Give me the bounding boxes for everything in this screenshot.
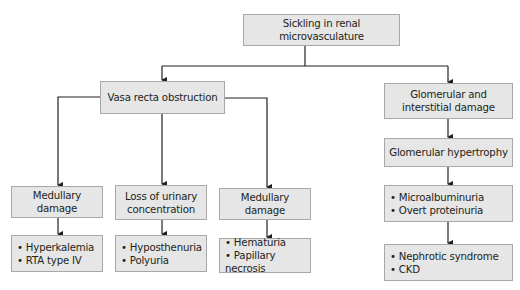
- list-item: Polyuria: [121, 254, 202, 267]
- list-item: Papillary necrosis: [225, 249, 310, 275]
- list-item: Hyperkalemia: [17, 241, 94, 254]
- glomerular-hypertrophy-node: Glomerular hypertrophy: [384, 138, 513, 167]
- nephrotic-node: Nephrotic syndrome CKD: [384, 244, 513, 281]
- glomerular-interstitial-node: Glomerular and interstitial damage: [384, 83, 513, 119]
- urinary-concentration-label: Loss of urinary concentration: [120, 190, 202, 216]
- root-label: Sickling in renal microvasculature: [244, 17, 399, 43]
- list-item: CKD: [390, 263, 499, 276]
- vasa-recta-node: Vasa recta obstruction: [100, 81, 225, 114]
- urinary-concentration-node: Loss of urinary concentration: [115, 185, 207, 220]
- proteinuria-node: Microalbuminuria Overt proteinuria: [384, 185, 513, 222]
- hyperkalemia-node: Hyperkalemia RTA type IV: [11, 235, 103, 272]
- medullary-damage-node-2: Medullary damage: [219, 188, 311, 220]
- list-item: Overt proteinuria: [390, 204, 484, 217]
- root-node: Sickling in renal microvasculature: [243, 14, 400, 46]
- medullary-damage-node-1: Medullary damage: [11, 186, 103, 218]
- glomerular-interstitial-label: Glomerular and interstitial damage: [391, 88, 506, 114]
- hematuria-list: Hematuria Papillary necrosis: [225, 236, 310, 275]
- list-item: RTA type IV: [17, 254, 94, 267]
- list-item: Nephrotic syndrome: [390, 250, 499, 263]
- list-item: Hematuria: [225, 236, 310, 249]
- nephrotic-list: Nephrotic syndrome CKD: [390, 250, 499, 276]
- hyposthenuria-node: Hyposthenuria Polyuria: [115, 235, 207, 272]
- glomerular-hypertrophy-label: Glomerular hypertrophy: [389, 146, 507, 159]
- proteinuria-list: Microalbuminuria Overt proteinuria: [390, 191, 484, 217]
- hyposthenuria-list: Hyposthenuria Polyuria: [121, 241, 202, 267]
- hematuria-node: Hematuria Papillary necrosis: [219, 238, 311, 273]
- medullary-damage-label-2: Medullary damage: [220, 191, 310, 217]
- list-item: Hyposthenuria: [121, 241, 202, 254]
- vasa-recta-label: Vasa recta obstruction: [108, 91, 218, 104]
- hyperkalemia-list: Hyperkalemia RTA type IV: [17, 241, 94, 267]
- list-item: Microalbuminuria: [390, 191, 484, 204]
- medullary-damage-label-1: Medullary damage: [12, 189, 102, 215]
